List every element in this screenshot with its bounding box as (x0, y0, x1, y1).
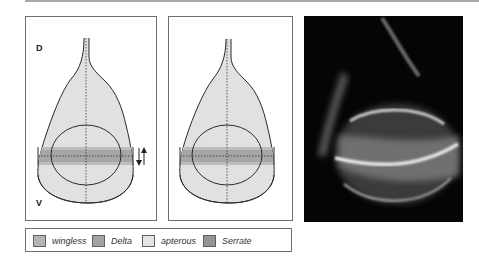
top-rule (25, 0, 479, 2)
micrograph-photo (304, 16, 463, 222)
legend-label: wingless (52, 236, 87, 246)
legend-item-serrate: Serrate (203, 234, 252, 247)
legend-label: apterous (161, 236, 196, 246)
legend-item-wingless: wingless (33, 234, 87, 247)
legend-label: Delta (111, 236, 132, 246)
swatch-delta (92, 235, 105, 247)
fluorescence-image (304, 16, 463, 222)
disc-outline (38, 38, 133, 203)
dv-arrows-icon (136, 147, 147, 166)
swatch-wingless (33, 235, 46, 247)
diagram-panel-left: D V (25, 16, 157, 221)
swatch-serrate (203, 235, 216, 247)
ventral-label: V (36, 198, 42, 208)
legend-item-delta: Delta (92, 234, 132, 247)
legend-label: Serrate (222, 236, 252, 246)
wing-disc-diagram (26, 17, 158, 222)
legend: wingless Delta apterous Serrate (25, 228, 292, 252)
legend-item-apterous: apterous (142, 234, 196, 247)
swatch-apterous (142, 235, 155, 247)
dorsal-label: D (36, 43, 43, 53)
wing-disc-diagram (169, 17, 294, 222)
diagram-panel-middle (168, 16, 293, 221)
